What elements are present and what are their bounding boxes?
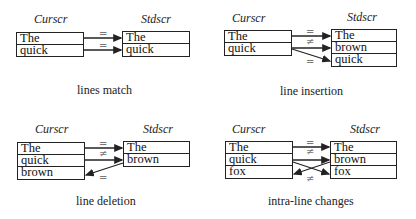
not-equal-icon: ≠ bbox=[306, 147, 314, 157]
panel-intra-line-changes: Curscr Stdscr The quick fox The brown fo… bbox=[210, 110, 416, 219]
equal-icon: = bbox=[99, 173, 107, 183]
equal-icon: = bbox=[99, 29, 107, 39]
panel-line-deletion: Curscr Stdscr The quick brown The brown … bbox=[0, 110, 210, 219]
panel-lines-match: Curscr Stdscr The quick The quick = = li… bbox=[0, 0, 210, 110]
not-equal-icon: ≠ bbox=[306, 37, 314, 47]
caption: line insertion bbox=[280, 85, 343, 97]
not-equal-icon: ≠ bbox=[306, 174, 314, 184]
caption: line deletion bbox=[76, 195, 136, 207]
equal-icon: = bbox=[99, 41, 107, 51]
caption: lines match bbox=[77, 84, 132, 96]
caption: intra-line changes bbox=[268, 195, 354, 207]
equal-icon: = bbox=[306, 57, 314, 67]
panel-line-insertion: Curscr Stdscr The quick The brown quick … bbox=[210, 0, 416, 110]
not-equal-icon: ≠ bbox=[99, 149, 107, 159]
